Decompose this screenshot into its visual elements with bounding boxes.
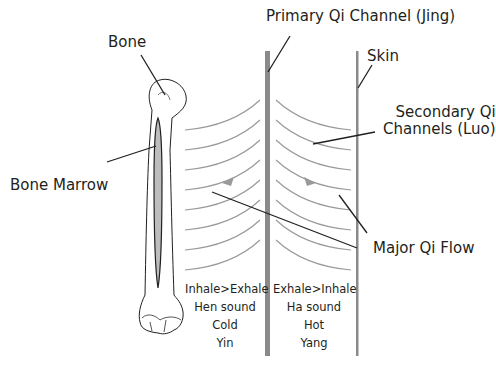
inner-temperature: Cold bbox=[185, 316, 265, 334]
inner-breath: Inhale>Exhale bbox=[185, 280, 265, 298]
secondary-channels-label-line1: Secondary Qi bbox=[383, 104, 496, 121]
outer-polarity: Yang bbox=[273, 334, 355, 352]
outer-properties-column: Exhale>Inhale Ha sound Hot Yang bbox=[273, 280, 355, 352]
bone-marrow-shape bbox=[154, 118, 162, 288]
primary-channel-leader bbox=[268, 36, 290, 72]
skin-line bbox=[356, 51, 359, 356]
outer-temperature: Hot bbox=[273, 316, 355, 334]
inner-polarity: Yin bbox=[185, 334, 265, 352]
major-flow-label: Major Qi Flow bbox=[373, 240, 474, 257]
inner-properties-column: Inhale>Exhale Hen sound Cold Yin bbox=[185, 280, 265, 352]
bone-illustration bbox=[139, 79, 186, 333]
secondary-channels-label: Secondary Qi Channels (Luo) bbox=[383, 104, 496, 138]
bone-label: Bone bbox=[108, 34, 146, 51]
secondary-channels-leader bbox=[313, 132, 375, 144]
inner-secondary-curves bbox=[185, 100, 260, 270]
outward-flow-arrow-icon bbox=[304, 177, 316, 186]
outer-breath: Exhale>Inhale bbox=[273, 280, 355, 298]
outer-sound: Ha sound bbox=[273, 298, 355, 316]
secondary-channels-label-line2: Channels (Luo) bbox=[383, 121, 496, 138]
skin-leader bbox=[358, 65, 372, 88]
skin-label: Skin bbox=[367, 48, 399, 65]
primary-channel-label: Primary Qi Channel (Jing) bbox=[266, 8, 455, 25]
bone-marrow-label: Bone Marrow bbox=[10, 177, 108, 194]
inner-sound: Hen sound bbox=[185, 298, 265, 316]
major-flow-leader-outer bbox=[339, 195, 367, 233]
major-flow-leader-inner bbox=[212, 192, 357, 248]
bone-leader bbox=[141, 55, 165, 95]
primary-channel-line bbox=[265, 51, 270, 356]
outer-secondary-curves bbox=[276, 100, 351, 270]
